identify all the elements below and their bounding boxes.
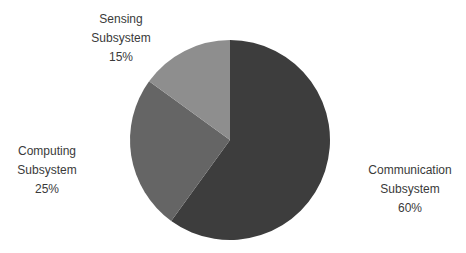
label-computing-subsystem: Computing Subsystem 25% — [17, 142, 76, 199]
label-sensing-subsystem: Sensing Subsystem 15% — [91, 10, 150, 67]
pie-chart-figure: Sensing Subsystem 15% Computing Subsyste… — [0, 0, 466, 253]
label-communication-subsystem: Communication Subsystem 60% — [368, 161, 451, 218]
